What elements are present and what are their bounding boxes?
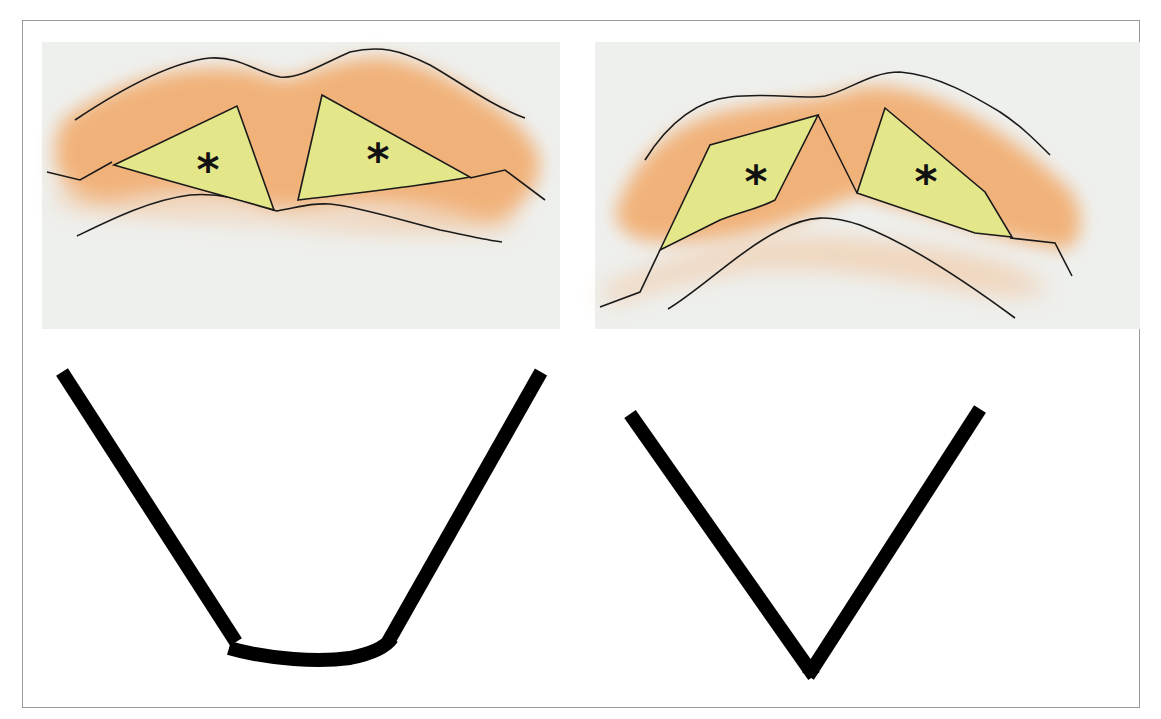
v-shape-right-arm <box>808 409 980 676</box>
panel-bottom-right <box>630 409 980 676</box>
diagram-canvas <box>0 0 1161 719</box>
asterisk-marker: * <box>914 160 937 204</box>
panel-bottom-left <box>62 372 541 660</box>
asterisk-marker: * <box>366 138 389 182</box>
panel-top-right <box>595 42 1140 329</box>
u-shape-right-arm <box>388 372 541 642</box>
u-shape-left-arm <box>62 372 236 642</box>
asterisk-marker: * <box>744 160 767 204</box>
panel-top-left <box>42 42 560 329</box>
asterisk-marker: * <box>196 148 219 192</box>
u-shape-base <box>229 638 392 660</box>
v-shape-left-arm <box>630 414 814 676</box>
